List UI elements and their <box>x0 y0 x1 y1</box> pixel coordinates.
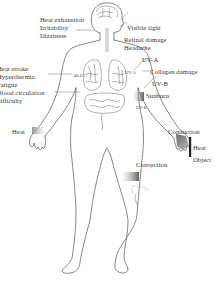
label-uva: UV-A <box>142 56 158 63</box>
left-inner-arm <box>45 88 76 136</box>
head-outline <box>91 3 123 33</box>
legs-outline <box>62 118 144 273</box>
label-collagen-damage: Collagen damage <box>150 68 197 75</box>
label-visible-light: Visible light <box>127 24 161 31</box>
torso-sides <box>72 88 142 118</box>
marker-uva: UV-A <box>125 69 136 76</box>
label-difficulty: difficulty <box>0 97 22 104</box>
label-blood-circulation: Blood circulation <box>0 89 45 96</box>
label-hyperthermia: Hyperthermia <box>0 73 35 80</box>
sunburn-patch <box>134 92 144 101</box>
body-figure <box>0 0 220 281</box>
neck-outline <box>100 33 114 40</box>
label-irritability: Irritability <box>40 24 68 31</box>
label-heat-exhaustion: Heat exhaustion <box>40 16 84 23</box>
leader-eye-2 <box>120 22 127 26</box>
label-temperature: 40.6°C <box>74 72 87 79</box>
label-convection: Convection <box>136 161 167 168</box>
convection-heat-band <box>123 172 139 181</box>
label-uvb: UV-B <box>152 80 168 87</box>
label-heat-stroke: Heat stroke <box>0 65 28 72</box>
body-diagram: Heat exhaustion Irritability Dizziness V… <box>0 0 220 281</box>
trachea <box>106 28 108 52</box>
label-heat-object-heat: Heat <box>193 144 206 151</box>
label-conduction: Conduction <box>168 128 200 135</box>
label-retinal-damage: Retinal damage <box>124 36 167 43</box>
label-sunburn: Sunburn <box>146 92 169 99</box>
heat-object-bar <box>189 137 191 157</box>
label-headache: Headache <box>124 44 151 51</box>
label-dizziness: Dizziness <box>40 32 67 39</box>
brain-detail <box>96 6 118 18</box>
intestines <box>85 93 125 130</box>
marker-uvb: UV-B <box>136 104 147 111</box>
lungs <box>83 60 126 90</box>
label-heat-object-object: Object <box>193 156 211 163</box>
convection-airflow <box>132 186 148 194</box>
hand-heat-band <box>32 127 44 134</box>
label-fatigue: Fatigue <box>0 81 17 88</box>
label-heat: Heat <box>12 128 25 135</box>
